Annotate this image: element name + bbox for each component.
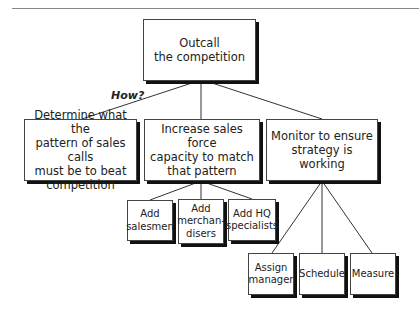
box-monitor-strategy: Monitor to ensure strategy is working [266,119,378,181]
box-assign-manager: Assign manager [248,253,294,295]
root-box-outcall-competition: Outcall the competition [143,19,256,81]
box-add-hq-specialists: Add HQ specialists [228,199,276,241]
text-line: Increase sales force [145,122,259,150]
text-line: Add [126,208,174,221]
text-line: Assign [249,262,294,275]
text-line: that pattern [145,164,259,178]
text-line: must be to beat [25,164,136,178]
text-line: Add [177,203,225,216]
text-line: Measure [352,268,395,281]
box-determine-pattern: Determine what the pattern of sales call… [24,119,137,181]
box-measure: Measure [350,253,396,295]
text-line: disers [177,228,225,241]
text-line: pattern of sales calls [25,136,136,164]
text-line: strategy is working [267,143,377,171]
text-line: Determine what the [25,108,136,136]
text-line: Add HQ [226,208,278,221]
root-label-line-2: the competition [154,50,245,64]
box-increase-capacity: Increase sales force capacity to match t… [144,119,260,181]
text-line: salesmen [126,221,174,234]
box-schedule: Schedule [299,253,345,295]
text-line: competition [25,178,136,192]
text-line: manager [249,274,294,287]
text-line: capacity to match [145,150,259,164]
text-line: specialists [226,220,278,233]
box-add-salesmen: Add salesmen [127,200,173,241]
text-line: merchan- [177,215,225,228]
text-line: Schedule [299,268,345,281]
box-add-merchandisers: Add merchan- disers [178,199,224,244]
text-line: Monitor to ensure [267,129,377,143]
how-question-label: How? [111,89,144,102]
root-label-line-1: Outcall [154,36,245,50]
